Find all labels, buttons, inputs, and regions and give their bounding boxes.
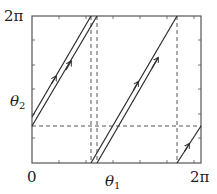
trajectory-left-lower [32,16,97,126]
plot-frame [32,16,201,163]
x-axis-ticks [59,16,194,163]
y-axis-ticks [32,40,201,138]
y-axis-max-label: 2π [4,7,24,25]
trajectory-mid-right [97,58,158,163]
x-axis-label: θ1 [105,172,120,191]
trajectory-left-upper [32,16,91,117]
x-axis-min-label: 0 [27,168,37,186]
torus-flow-diagram: 2π 0 2π θ2 θ1 [0,0,217,194]
trajectories [32,16,201,163]
x-axis-max-label: 2π [190,168,210,186]
arrow-icons [52,58,190,152]
dashed-guides [32,16,201,163]
y-axis-label: θ2 [10,92,25,111]
